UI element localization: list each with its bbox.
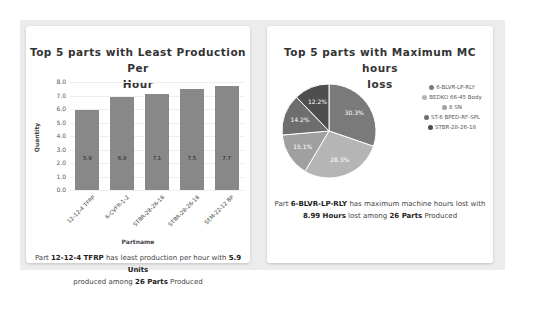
bar[interactable]: 7.1 [145, 94, 169, 190]
pie-slice-label: 28.3% [330, 156, 349, 163]
x-tick-label: SEM-22-12 BP [203, 194, 234, 225]
legend-dot-icon [442, 105, 447, 110]
summary-text: lost among [346, 212, 390, 220]
y-tick-label: 2.0 [48, 159, 66, 166]
legend-label: STBR-28-26-18 [435, 124, 476, 130]
pie-slice-label: 15.1% [293, 143, 312, 150]
summary-text: Produced [422, 212, 457, 220]
bar[interactable]: 7.7 [215, 86, 239, 190]
summary-part: 12-12-4 TFRP [51, 254, 104, 262]
pie-slice-label: 14.2% [290, 116, 309, 123]
bar-value-label: 6.9 [110, 155, 134, 161]
y-tick-label: 0.0 [48, 186, 66, 193]
bar[interactable]: 5.9 [75, 110, 99, 190]
bar[interactable]: 7.5 [180, 89, 204, 190]
title-line-1: Top 5 parts with Maximum MC hours [267, 44, 493, 76]
y-tick-label: 3.0 [48, 146, 66, 153]
legend-item[interactable]: 8 SN [417, 104, 487, 110]
summary-text: has least production per hour with [104, 254, 229, 262]
legend-item[interactable]: STBR-28-26-18 [417, 124, 487, 130]
legend-dot-icon [422, 95, 427, 100]
bar-value-label: 7.5 [180, 155, 204, 161]
max-mc-hours-card: Top 5 parts with Maximum MC hours loss 3… [267, 26, 493, 263]
y-tick-label: 1.0 [48, 173, 66, 180]
max-mc-hours-summary: Part 6-BLVR-LP-RLY has maximum machine h… [271, 198, 489, 222]
bar[interactable]: 6.9 [110, 97, 134, 190]
grid-line [70, 82, 244, 83]
y-tick-label: 6.0 [48, 105, 66, 112]
least-production-summary: Part 12-12-4 TFRP has least production p… [30, 252, 246, 288]
summary-value: 8.99 Hours [303, 212, 346, 220]
x-tick-label: STBR-28-26-18 [167, 194, 200, 227]
legend-label: BEDKO 66-45 Body [429, 94, 481, 100]
summary-count: 26 Parts [389, 212, 422, 220]
legend-item[interactable]: BEDKO 66-45 Body [417, 94, 487, 100]
pie-slice-label: 12.2% [308, 98, 327, 105]
y-axis-title: Quantity [33, 123, 40, 152]
legend-dot-icon [429, 85, 434, 90]
x-axis-title: Partname [26, 238, 250, 245]
bar-value-label: 7.1 [145, 155, 169, 161]
legend-label: 6-BLVR-LP-RLY [436, 84, 475, 90]
legend-item[interactable]: 6-BLVR-LP-RLY [417, 84, 487, 90]
summary-text: produced among [73, 278, 135, 286]
summary-text: Part [275, 200, 291, 208]
least-production-card: Top 5 parts with Least Production Per Ho… [26, 26, 250, 263]
legend-dot-icon [428, 125, 433, 130]
summary-part: 6-BLVR-LP-RLY [291, 200, 348, 208]
legend-label: 8 SN [449, 104, 462, 110]
bar-value-label: 7.7 [215, 155, 239, 161]
x-tick-label: STBR-28-26-18 [132, 194, 165, 227]
summary-text: Part [35, 254, 51, 262]
legend-item[interactable]: ST-6 BPED-RF-SPL [417, 114, 487, 120]
pie-slice-label: 30.3% [345, 109, 364, 116]
bar-value-label: 5.9 [75, 155, 99, 161]
summary-count: 26 Parts [135, 278, 168, 286]
grid-line [70, 190, 244, 191]
legend-dot-icon [424, 115, 429, 120]
y-tick-label: 4.0 [48, 132, 66, 139]
legend-label: ST-6 BPED-RF-SPL [431, 114, 480, 120]
summary-text: has maximum machine hours lost with [347, 200, 485, 208]
y-tick-label: 5.0 [48, 119, 66, 126]
dashboard-panel: Top 5 parts with Least Production Per Ho… [20, 20, 505, 270]
y-tick-label: 7.0 [48, 92, 66, 99]
x-tick-label: 12-12-4 TFRP [65, 194, 95, 224]
y-tick-label: 8.0 [48, 78, 66, 85]
bar-chart: 8.07.06.05.04.03.02.01.00.05.912-12-4 TF… [26, 26, 250, 263]
summary-text: Produced [168, 278, 203, 286]
x-tick-label: 6-CVFR-1-2 [104, 194, 130, 220]
